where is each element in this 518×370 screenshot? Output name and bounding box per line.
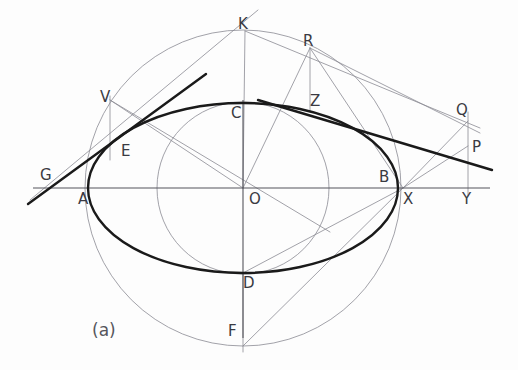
point-label-o: O — [249, 192, 261, 207]
radius-O-R — [243, 48, 310, 188]
point-label-g: G — [40, 168, 52, 183]
point-label-x: X — [403, 192, 414, 207]
axes — [33, 100, 490, 338]
geometry-canvas — [0, 0, 518, 370]
point-label-z: Z — [310, 94, 321, 109]
ray-G-K — [30, 10, 258, 200]
tangent-lines — [28, 74, 492, 204]
ray-X-R — [310, 48, 403, 188]
point-label-r: R — [303, 34, 314, 49]
point-label-q: Q — [456, 103, 468, 118]
figure-caption: (a) — [92, 322, 116, 339]
tangent-at-E — [28, 74, 206, 204]
point-label-c: C — [231, 106, 242, 121]
point-label-k: K — [238, 17, 248, 32]
point-label-e: E — [121, 144, 131, 159]
ray-X-Q — [403, 121, 468, 188]
point-label-d: D — [243, 276, 255, 291]
point-label-b: B — [379, 170, 390, 185]
figure-container: ABCDEFGKOPQRVXYZ (a) — [0, 0, 518, 370]
point-label-v: V — [100, 90, 111, 105]
point-label-f: F — [228, 324, 237, 339]
thin-construction-lines — [30, 10, 480, 352]
point-label-a: A — [78, 192, 89, 207]
ray-K-Q — [245, 31, 480, 128]
ray-X-F — [243, 188, 403, 346]
point-label-p: P — [472, 140, 482, 155]
point-label-y: Y — [462, 192, 472, 207]
